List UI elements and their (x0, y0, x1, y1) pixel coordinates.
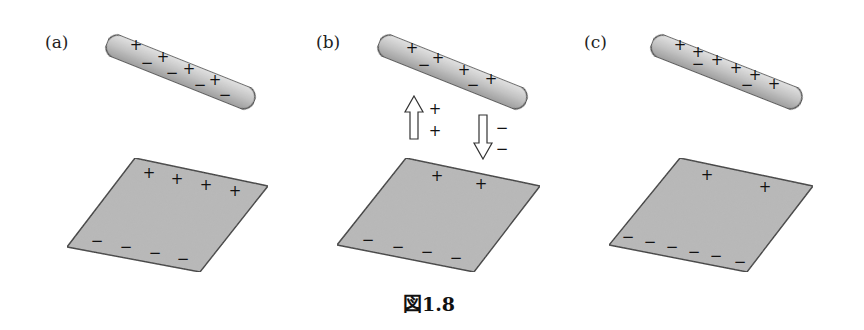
minus-charge: − (362, 231, 375, 249)
arrow-up-icon (405, 96, 423, 139)
minus-charge: − (421, 243, 434, 261)
panel-label: (a) (45, 32, 68, 52)
plus-charge: + (229, 182, 242, 200)
minus-charge: − (692, 55, 705, 73)
minus-charge: − (194, 76, 207, 94)
minus-charge: − (666, 238, 679, 256)
arrow-down-icon (474, 115, 492, 159)
minus-charge: − (496, 119, 509, 137)
panel-b: (b)++−−−−++++−−++−− (316, 31, 540, 272)
plus-charge: + (200, 176, 213, 194)
minus-charge: − (166, 64, 179, 82)
minus-charge: − (149, 244, 162, 262)
minus-charge: − (741, 76, 754, 94)
minus-charge: − (622, 228, 635, 246)
minus-charge: − (710, 247, 723, 265)
plus-charge: + (701, 166, 714, 184)
plus-charge: + (730, 59, 743, 77)
charged-rod (102, 31, 258, 112)
minus-charge: − (496, 140, 509, 158)
minus-charge: − (644, 233, 657, 251)
metal-plate (67, 158, 268, 272)
plus-charge: + (171, 170, 184, 188)
minus-charge: − (91, 232, 104, 250)
minus-charge: − (688, 243, 701, 261)
plus-charge: + (429, 100, 442, 118)
plus-charge: + (432, 49, 445, 67)
plus-charge: + (406, 39, 419, 57)
minus-charge: − (177, 250, 190, 268)
panel-a: (a)++++−−−−++++−−−− (45, 31, 268, 272)
minus-charge: − (450, 249, 463, 267)
panel-label: (b) (316, 32, 340, 52)
plus-charge: + (143, 164, 156, 182)
charged-rod (647, 31, 805, 112)
panel-label: (c) (584, 32, 607, 52)
minus-charge: − (418, 56, 431, 74)
minus-charge: − (392, 238, 405, 256)
minus-charge: − (734, 253, 747, 271)
plus-charge: + (674, 36, 687, 54)
plus-charge: + (759, 178, 772, 196)
charged-rod (374, 31, 530, 112)
minus-charge: − (467, 76, 480, 94)
figure-caption: 図1.8 (403, 293, 455, 315)
plus-charge: + (711, 51, 724, 69)
plus-charge: + (475, 175, 488, 193)
plus-charge: + (429, 122, 442, 140)
minus-charge: − (120, 238, 133, 256)
plus-charge: + (130, 36, 143, 54)
minus-charge: − (219, 86, 232, 104)
minus-charge: − (141, 54, 154, 72)
plus-charge: + (485, 70, 498, 88)
plus-charge: + (768, 75, 781, 93)
panel-c: (c)++−−−−−−++++++−− (584, 31, 813, 272)
figure-canvas: (a)++++−−−−++++−−−− (b)++−−−−++++−−++−− … (0, 0, 864, 330)
plus-charge: + (431, 167, 444, 185)
